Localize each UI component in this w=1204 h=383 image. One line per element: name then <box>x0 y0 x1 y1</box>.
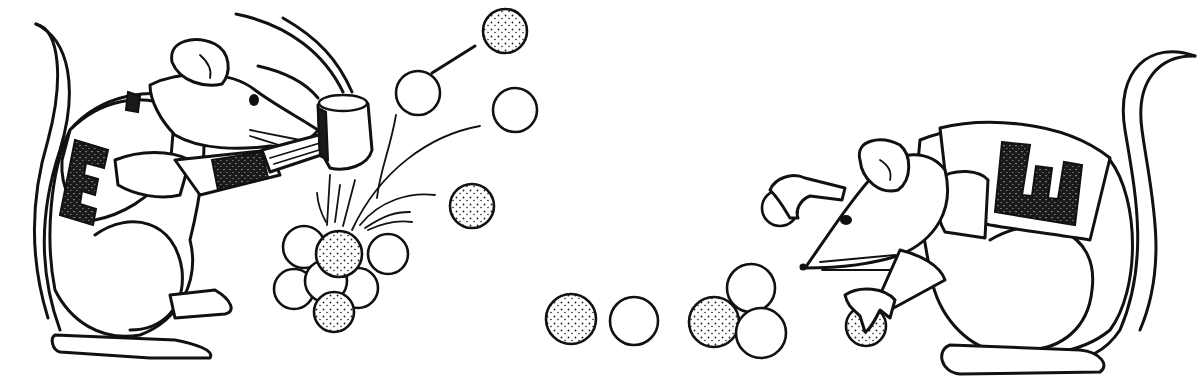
left-sleeve-stripe <box>126 92 140 112</box>
right-mouse-eye <box>840 215 852 225</box>
left-mouse-eye <box>249 94 259 106</box>
left-mouse-cuff <box>212 152 268 190</box>
left-mouse-front-foot <box>170 290 231 318</box>
illustration-scene: Line-art illustration of two mice wearin… <box>0 0 1204 383</box>
right-mouse-nose <box>800 264 807 271</box>
illustration-canvas <box>0 0 1204 383</box>
floor-balls <box>546 264 786 358</box>
ball-cluster-left <box>274 226 408 332</box>
left-mouse-foot <box>52 335 211 358</box>
right-mouse <box>762 52 1195 374</box>
right-mouse-foot <box>942 345 1104 374</box>
swing-motion-lines <box>236 14 352 98</box>
